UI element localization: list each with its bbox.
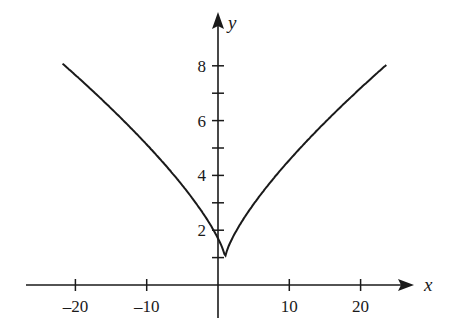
- y-tick-label: 4: [198, 166, 207, 185]
- x-tick-label: 20: [352, 297, 369, 316]
- x-tick-label: –10: [133, 297, 160, 316]
- y-axis-label: y: [226, 12, 237, 33]
- y-tick-label: 8: [198, 57, 207, 76]
- x-tick-label: –20: [62, 297, 89, 316]
- y-ticks: 2468: [198, 57, 225, 258]
- y-tick-label: 6: [198, 112, 207, 131]
- data-curve: [63, 64, 387, 256]
- x-axis: x: [26, 274, 433, 295]
- chart: x y –20–101020 2468: [0, 0, 460, 330]
- x-tick-label: 10: [281, 297, 298, 316]
- y-axis: y: [212, 12, 237, 318]
- y-tick-label: 2: [198, 221, 207, 240]
- x-axis-label: x: [423, 274, 433, 295]
